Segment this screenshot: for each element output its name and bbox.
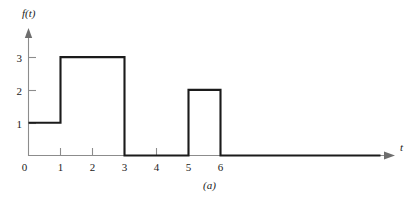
- y-tick-label-1: 1: [10, 118, 22, 129]
- figure-caption: (a): [0, 180, 419, 191]
- x-tick-label-4: 4: [154, 162, 160, 173]
- y-axis-arrowhead: [25, 28, 32, 38]
- y-tick-label-2: 2: [10, 85, 22, 96]
- figure-container: 3 2 1 0 1 2 3 4 5 6 f(t) t (a): [0, 0, 419, 203]
- x-axis-arrowhead: [384, 152, 395, 160]
- x-tick-label-3: 3: [122, 162, 128, 173]
- x-tick-label-0: 0: [22, 162, 28, 173]
- x-tick-label-2: 2: [90, 162, 96, 173]
- y-axis-title: f(t): [22, 8, 35, 19]
- x-tick-label-5: 5: [186, 162, 192, 173]
- x-tick-label-1: 1: [58, 162, 64, 173]
- x-axis-title: t: [400, 142, 403, 153]
- y-tick-label-3: 3: [10, 52, 22, 63]
- x-tick-label-6: 6: [218, 162, 224, 173]
- waveform-trace: [29, 57, 381, 155]
